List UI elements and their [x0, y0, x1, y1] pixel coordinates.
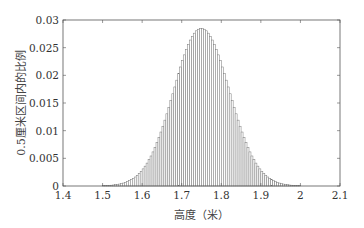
histogram-bar [225, 80, 227, 186]
histogram-bar [138, 173, 140, 186]
histogram-bar [279, 183, 281, 186]
histogram-bar [196, 31, 198, 186]
histogram-bar [263, 173, 265, 186]
histogram-bar [146, 163, 148, 186]
histogram-bar [255, 163, 257, 186]
histogram-bar [243, 138, 245, 186]
histogram-bar [273, 181, 275, 186]
x-axis-label: 高度（米） [174, 208, 229, 222]
histogram-bar [217, 55, 219, 186]
histogram-bar [132, 178, 134, 186]
y-tick-label: 0.025 [29, 42, 59, 54]
histogram-bar [174, 87, 176, 186]
histogram-bar [134, 177, 136, 186]
histogram-bar [265, 175, 267, 186]
histogram-bar [235, 114, 237, 186]
histogram-bar [215, 49, 217, 186]
histogram-bar [269, 178, 271, 186]
histogram-bar [245, 143, 247, 186]
x-tick-label: 1.5 [94, 189, 111, 201]
histogram-bar [152, 152, 154, 186]
histogram-bar [130, 180, 132, 186]
y-tick-label: 0.01 [36, 125, 59, 137]
histogram-bar [180, 67, 182, 186]
histogram-bar [277, 182, 279, 186]
histogram-bar [237, 120, 239, 186]
histogram-bar [178, 73, 180, 186]
histogram-bar [162, 126, 164, 186]
histogram-bars [103, 28, 301, 186]
histogram-bar [136, 175, 138, 186]
histogram-bar [231, 101, 233, 186]
x-tick-label: 1.9 [253, 189, 270, 201]
histogram-bar [166, 114, 168, 186]
histogram-bar [227, 87, 229, 186]
histogram-bar [188, 44, 190, 186]
y-axis-label: 0.5厘米区间内的比例 [14, 50, 28, 156]
histogram-bar [200, 28, 202, 186]
y-tick-label: 0.005 [29, 152, 59, 164]
histogram-bar [271, 180, 273, 186]
histogram-bar [172, 94, 174, 186]
histogram-bar [247, 147, 249, 186]
histogram-bar [124, 182, 126, 186]
histogram-bar [202, 28, 204, 186]
x-tick-label: 2 [297, 189, 304, 201]
histogram-bar [182, 61, 184, 186]
histogram-bar [148, 160, 150, 186]
histogram-bar [154, 147, 156, 186]
histogram-bar [249, 152, 251, 186]
histogram-bar [221, 67, 223, 186]
histogram-bar [239, 126, 241, 186]
histogram-chart: 1.41.51.61.71.81.922.1 00.0050.010.0150.… [0, 0, 364, 228]
x-tick-label: 2.1 [332, 189, 349, 201]
histogram-bar [190, 40, 192, 186]
histogram-bar [203, 29, 205, 186]
histogram-bar [170, 101, 172, 186]
histogram-bar [192, 36, 194, 186]
histogram-bar [160, 132, 162, 186]
histogram-bar [168, 107, 170, 186]
histogram-bar [164, 120, 166, 186]
histogram-bar [213, 44, 215, 186]
histogram-bar [150, 156, 152, 186]
histogram-bar [122, 183, 124, 186]
histogram-bar [257, 166, 259, 186]
histogram-bar [219, 61, 221, 186]
y-tick-label: 0.015 [29, 97, 59, 109]
histogram-bar [229, 94, 231, 186]
histogram-bar [233, 107, 235, 186]
histogram-bar [126, 182, 128, 186]
histogram-bar [207, 33, 209, 186]
histogram-bar [128, 181, 130, 186]
x-tick-label: 1.7 [173, 189, 190, 201]
histogram-bar [209, 36, 211, 186]
histogram-bar [275, 182, 277, 186]
histogram-bar [176, 80, 178, 186]
y-tick-label: 0.02 [36, 69, 59, 81]
x-tick-label: 1.8 [213, 189, 230, 201]
histogram-bar [211, 40, 213, 186]
histogram-bar [223, 73, 225, 186]
histogram-bar [186, 49, 188, 186]
histogram-bar [267, 177, 269, 186]
histogram-bar [158, 138, 160, 186]
histogram-bar [205, 31, 207, 186]
histogram-bar [194, 33, 196, 186]
histogram-bar [198, 29, 200, 186]
histogram-bar [253, 160, 255, 186]
histogram-bar [241, 132, 243, 186]
y-tick-label: 0.03 [36, 14, 59, 26]
x-tick-label: 1.6 [134, 189, 151, 201]
histogram-bar [251, 156, 253, 186]
histogram-bar [156, 143, 158, 186]
y-tick-label: 0 [52, 180, 59, 192]
histogram-bar [144, 166, 146, 186]
histogram-bar [184, 55, 186, 186]
